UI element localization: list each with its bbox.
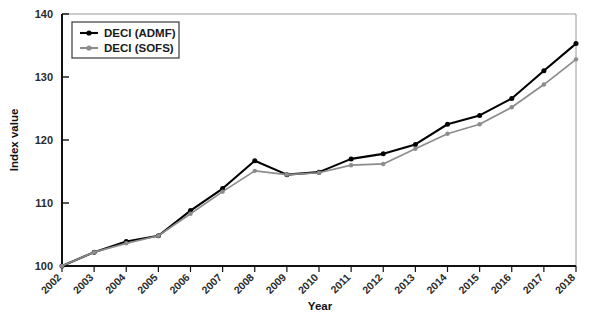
data-point xyxy=(349,156,354,161)
data-point xyxy=(574,57,578,61)
data-point xyxy=(188,212,192,216)
y-axis-title: Index value xyxy=(8,109,20,172)
data-point xyxy=(349,163,353,167)
data-point xyxy=(92,250,96,254)
data-point xyxy=(317,171,321,175)
chart-legend: DECI (ADMF)DECI (SOFS) xyxy=(72,22,179,58)
line-chart: 100110120130140 200220032004200520062007… xyxy=(0,0,590,319)
data-point xyxy=(541,68,546,73)
y-tick-label: 100 xyxy=(35,260,53,272)
y-tick-label: 130 xyxy=(35,71,53,83)
data-point xyxy=(477,113,482,118)
data-point xyxy=(574,41,579,46)
y-tick-label: 120 xyxy=(35,134,53,146)
legend-marker-swatch xyxy=(86,45,91,50)
data-point xyxy=(413,142,418,147)
data-point xyxy=(253,169,257,173)
data-point xyxy=(509,96,514,101)
data-point xyxy=(220,189,224,193)
x-axis-title: Year xyxy=(308,300,333,312)
data-point xyxy=(156,234,160,238)
chart-canvas: 100110120130140 200220032004200520062007… xyxy=(0,0,590,319)
data-point xyxy=(60,264,64,268)
data-point xyxy=(381,162,385,166)
data-point xyxy=(445,122,450,127)
legend-marker-swatch xyxy=(86,30,91,35)
data-point xyxy=(445,132,449,136)
data-point xyxy=(124,241,128,245)
data-point xyxy=(381,151,386,156)
y-tick-label: 140 xyxy=(35,8,53,20)
data-point xyxy=(542,82,546,86)
legend-label: DECI (ADMF) xyxy=(104,27,176,39)
data-point xyxy=(477,122,481,126)
y-tick-label: 110 xyxy=(35,197,53,209)
data-point xyxy=(413,147,417,151)
data-point xyxy=(510,105,514,109)
legend-label: DECI (SOFS) xyxy=(104,42,174,54)
data-point xyxy=(285,172,289,176)
data-point xyxy=(252,158,257,163)
